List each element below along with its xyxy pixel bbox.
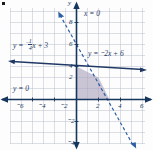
y-tick-label-2: 2: [69, 74, 73, 81]
y-tick-label-neg4: ⁻4: [67, 140, 75, 147]
x-tick-label-neg2: ⁻2: [60, 103, 68, 110]
x-tick-label-6: 6: [140, 103, 144, 110]
label-line-x-equals-0: x = 0: [84, 10, 100, 18]
label-line-1-suffix: x + 3: [32, 41, 48, 50]
coordinate-plane: [0, 0, 153, 150]
y-tick-label-6: 6: [69, 41, 73, 48]
label-line-1-prefix: y =: [13, 41, 25, 50]
y-axis-name: y: [68, 0, 71, 7]
x-tick-label-4: 4: [118, 103, 122, 110]
dashed-line-arrow-upper: [58, 12, 64, 18]
solid-line-arrow-left: [8, 60, 15, 65]
y-tick-label-4: 4: [69, 63, 73, 70]
x-tick-label-neg4: ⁻4: [38, 103, 46, 110]
dashed-line-arrow-lower: [130, 142, 136, 148]
label-line-y-equals-0: y = 0: [13, 85, 29, 93]
y-tick-label-neg2: ⁻2: [67, 118, 75, 125]
label-line-1: y = ⁻14x + 3: [13, 38, 48, 51]
solid-line-arrow-right: [140, 68, 147, 73]
figure-canvas: y y = ⁻14x + 3 y = ⁻2x + 6 x = 0 y = 0 ⁻…: [0, 0, 153, 150]
label-line-2: y = ⁻2x + 6: [88, 50, 124, 58]
x-tick-label-2: 2: [96, 103, 100, 110]
x-tick-label-neg6: ⁻6: [16, 103, 24, 110]
y-tick-label-8: 8: [69, 19, 73, 26]
